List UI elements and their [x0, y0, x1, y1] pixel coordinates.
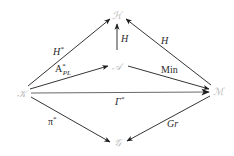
label-H-star: H* [52, 45, 64, 57]
label-H-diagonal: H [160, 35, 169, 46]
node-K: 𝒦 [17, 88, 30, 99]
label-pi-star: π* [48, 115, 57, 127]
arrow-K-to-G [31, 97, 110, 142]
node-M: ℳ [213, 86, 225, 97]
label-Gamma-star: Γ* [114, 95, 125, 107]
commutative-diagram: 𝒦 ℋ 𝒜 ℳ 𝒢 H* A*PL Γ* π* H H Min Gr [0, 0, 234, 156]
arrow-M-to-H [126, 19, 211, 85]
node-H: ℋ [112, 10, 124, 21]
label-Gr: Gr [167, 118, 178, 129]
node-A: 𝒜 [112, 61, 125, 72]
label-Min: Min [161, 64, 178, 75]
label-H-vertical: H [120, 33, 129, 44]
label-A-PL-star: A*PL [55, 62, 71, 77]
arrow-K-to-M [31, 92, 209, 93]
node-G: 𝒢 [114, 137, 123, 148]
